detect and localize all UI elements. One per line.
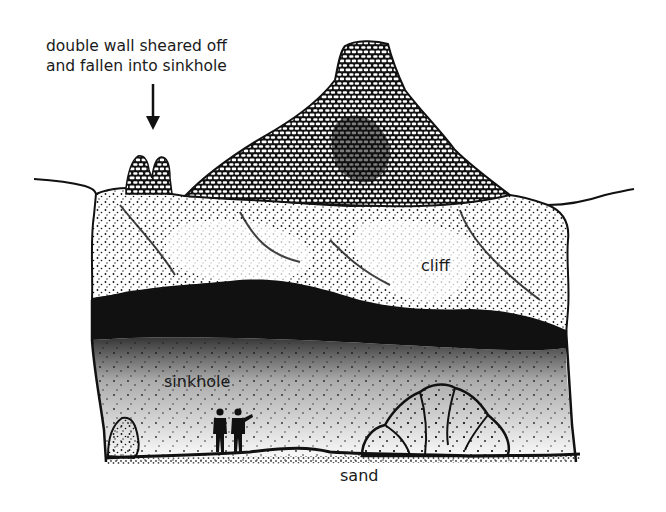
sheared-double-wall	[126, 156, 172, 194]
caption-line-2: and fallen into sinkhole	[46, 56, 227, 76]
cliff-label: cliff	[421, 256, 450, 275]
down-arrow-icon	[146, 84, 160, 130]
sinkhole-label: sinkhole	[164, 372, 230, 391]
diagram-canvas	[0, 0, 666, 512]
caption-line-1: double wall sheared off	[46, 36, 227, 56]
ground-surface-left	[34, 179, 96, 194]
sand-label: sand	[340, 466, 378, 485]
annotation-caption: double wall sheared off and fallen into …	[46, 36, 227, 76]
ground-surface-right	[548, 189, 634, 205]
sinkhole-diagram: double wall sheared off and fallen into …	[0, 0, 666, 512]
